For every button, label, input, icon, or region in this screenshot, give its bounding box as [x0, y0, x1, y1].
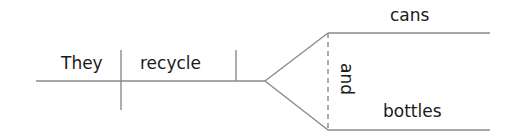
sentence-diagram: They recycle cans bottles and: [0, 0, 513, 136]
fork-lower-branch: [265, 81, 328, 130]
verb-word: recycle: [140, 55, 201, 72]
conjunction-word: and: [338, 63, 355, 95]
subject-word: They: [61, 55, 103, 72]
object-word-1: cans: [390, 7, 429, 24]
fork-upper-branch: [265, 33, 328, 81]
object-word-2: bottles: [383, 103, 442, 120]
